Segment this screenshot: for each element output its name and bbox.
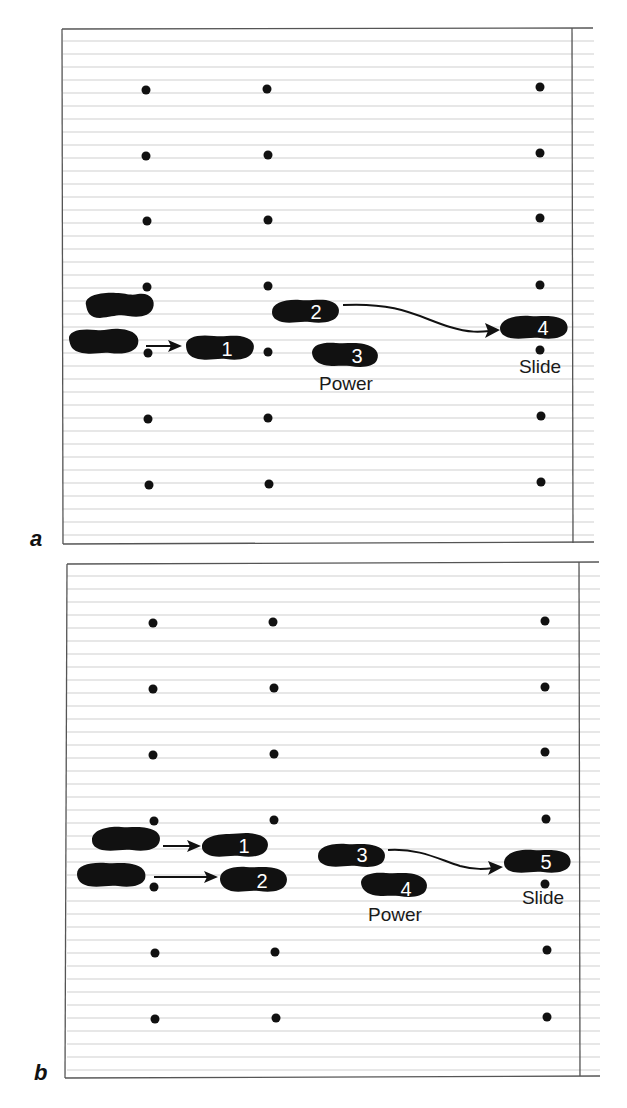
start-footprint-left: [92, 827, 160, 851]
panel-border: [65, 562, 600, 1078]
footprint-3: [318, 844, 385, 867]
footprint-2: [220, 867, 287, 892]
step-number: 3: [356, 845, 367, 865]
ruled-lines: [67, 576, 600, 1070]
step-number: 4: [400, 879, 411, 899]
step-number: 5: [540, 852, 551, 872]
start-footprint-right: [77, 863, 145, 887]
footprint-5: [504, 850, 571, 873]
caption-power: Power: [368, 904, 422, 926]
step-number: 1: [238, 836, 249, 856]
panel-b-diagram: [0, 0, 627, 1108]
panel-label-b: b: [34, 1060, 47, 1086]
footprint-4: [361, 873, 427, 897]
footprint-1: [202, 833, 268, 857]
target-dots: [149, 617, 552, 1024]
caption-slide: Slide: [522, 887, 564, 909]
step-number: 2: [256, 871, 267, 891]
panel-b: 1 2 3 4 5 Power Slide b: [0, 0, 627, 1108]
